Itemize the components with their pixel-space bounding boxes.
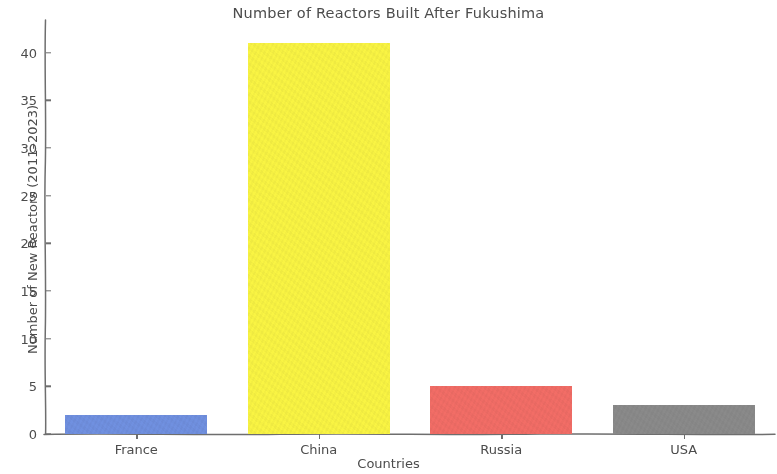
x-tick-mark: [684, 434, 685, 439]
y-tick-mark: [46, 386, 51, 387]
x-tick-label: USA: [670, 442, 697, 457]
chart-title: Number of Reactors Built After Fukushima: [0, 5, 777, 21]
x-tick-mark: [319, 434, 320, 439]
x-tick-mark: [136, 434, 137, 439]
plot-area: [45, 22, 775, 434]
x-axis-label: Countries: [0, 456, 777, 471]
bar-fill: [65, 415, 207, 434]
y-tick-mark: [46, 243, 51, 244]
y-tick-mark: [46, 433, 51, 434]
y-tick-mark: [46, 147, 51, 148]
y-axis-label: Number of New Reactors (2011–2023): [25, 30, 40, 430]
x-tick-label: Russia: [480, 442, 522, 457]
bar-fill: [613, 405, 755, 434]
x-tick-label: France: [115, 442, 158, 457]
bar-russia: [430, 386, 572, 434]
y-tick-mark: [46, 100, 51, 101]
bar-chart-figure: Number of Reactors Built After Fukushima…: [0, 0, 777, 474]
y-tick-mark: [46, 52, 51, 53]
y-tick-mark: [46, 338, 51, 339]
x-tick-label: China: [300, 442, 337, 457]
y-tick-mark: [46, 195, 51, 196]
y-tick-mark: [46, 290, 51, 291]
bar-fill: [248, 43, 390, 434]
bar-fill: [430, 386, 572, 434]
bar-france: [65, 415, 207, 434]
bar-china: [248, 43, 390, 434]
bar-usa: [613, 405, 755, 434]
x-tick-mark: [501, 434, 502, 439]
